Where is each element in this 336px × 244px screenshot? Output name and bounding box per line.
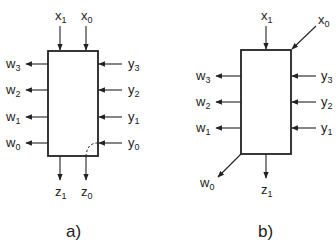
output-w0-a: w0 [5,135,48,152]
svg-text:w1: w1 [195,120,210,137]
svg-text:y3: y3 [321,68,333,85]
input-x0-b: x0 [292,12,330,49]
output-z1-b: z1 [261,154,273,199]
input-y3-a: y3 [99,56,140,73]
svg-text:y1: y1 [128,109,140,126]
svg-text:w3: w3 [195,68,210,85]
svg-text:w2: w2 [5,82,20,99]
svg-text:z0: z0 [81,184,93,201]
svg-text:z1: z1 [55,184,67,201]
output-w0-b: w0 [199,154,241,192]
svg-text:y2: y2 [128,82,140,99]
svg-text:y0: y0 [128,135,140,152]
input-y3-b: y3 [292,68,333,85]
svg-text:w3: w3 [5,56,20,73]
output-z1-a: z1 [55,156,67,201]
input-y2-b: y2 [292,94,333,111]
block-a [48,51,98,156]
diagram-a: x1 x0 w3 w2 w1 w0 y3 y2 [5,8,140,241]
diagram-b: x1 x0 w3 w2 w1 w0 y3 [195,8,333,241]
output-w1-b: w1 [195,120,241,137]
output-w3-a: w3 [5,56,48,73]
block-b [241,50,291,154]
caption-b: b) [258,222,273,241]
input-y0-a: y0 [99,135,140,152]
svg-text:x1: x1 [55,8,67,25]
output-z0-a: z0 [81,156,93,201]
svg-text:x0: x0 [81,8,93,25]
svg-text:w0: w0 [199,175,214,192]
svg-text:y1: y1 [321,120,333,137]
svg-text:w0: w0 [5,135,20,152]
input-y2-a: y2 [99,82,140,99]
output-w3-b: w3 [195,68,241,85]
input-x1-a: x1 [55,8,67,50]
diagram-canvas: x1 x0 w3 w2 w1 w0 y3 y2 [0,0,336,244]
output-w1-a: w1 [5,109,48,126]
caption-a: a) [66,222,81,241]
input-y1-b: y1 [292,120,333,137]
svg-text:x1: x1 [261,8,273,25]
output-w2-a: w2 [5,82,48,99]
input-x0-a: x0 [81,8,93,50]
input-y1-a: y1 [99,109,140,126]
svg-text:z1: z1 [261,182,273,199]
svg-text:w1: w1 [5,109,20,126]
svg-text:y2: y2 [321,94,333,111]
svg-text:x0: x0 [318,12,330,29]
svg-text:y3: y3 [128,56,140,73]
svg-text:w2: w2 [195,94,210,111]
input-x1-b: x1 [261,8,273,49]
output-w2-b: w2 [195,94,241,111]
